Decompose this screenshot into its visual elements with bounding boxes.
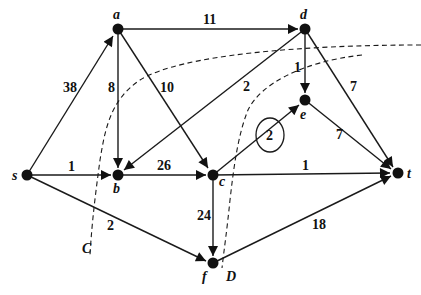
weight-f-t: 18 bbox=[312, 217, 326, 232]
label-cut-d: D bbox=[225, 269, 236, 284]
label-d: d bbox=[300, 7, 308, 22]
weight-a-b: 8 bbox=[108, 80, 115, 95]
node-f bbox=[208, 258, 219, 269]
edge-a-c bbox=[118, 29, 208, 168]
edge-d-t bbox=[305, 29, 393, 167]
weight-a-c: 10 bbox=[160, 80, 174, 95]
label-cut-c: C bbox=[82, 241, 92, 256]
node-c bbox=[208, 170, 219, 181]
weight-d-b: 2 bbox=[243, 79, 250, 94]
label-e: e bbox=[300, 107, 306, 122]
weight-c-e: 2 bbox=[266, 128, 273, 143]
node-e bbox=[300, 95, 311, 106]
weight-s-a: 38 bbox=[63, 80, 77, 95]
weight-s-f: 2 bbox=[107, 218, 114, 233]
label-a: a bbox=[113, 7, 120, 22]
label-t: t bbox=[407, 166, 412, 181]
node-s bbox=[22, 170, 33, 181]
label-f: f bbox=[202, 269, 208, 284]
node-a bbox=[113, 24, 124, 35]
cut-curve-c bbox=[90, 45, 421, 255]
node-d bbox=[300, 24, 311, 35]
weight-d-e: 1 bbox=[294, 60, 301, 75]
weight-b-c: 26 bbox=[157, 158, 171, 173]
weight-a-d: 11 bbox=[203, 12, 216, 27]
weight-e-t: 7 bbox=[336, 127, 343, 142]
label-s: s bbox=[11, 168, 18, 183]
flow-network-diagram: 38 11 8 10 2 1 7 7 1 26 2 1 24 2 18 a d … bbox=[0, 0, 421, 295]
node-t bbox=[393, 168, 404, 179]
node-b bbox=[113, 170, 124, 181]
node-labels: a d e s b c t f C D bbox=[11, 7, 412, 284]
edge-f-t bbox=[213, 176, 391, 263]
edges bbox=[27, 29, 393, 263]
edge-c-t bbox=[213, 173, 390, 175]
edge-s-a bbox=[27, 36, 113, 175]
weight-c-t: 1 bbox=[302, 158, 309, 173]
weight-c-f: 24 bbox=[197, 208, 211, 223]
edge-e-t bbox=[305, 100, 391, 169]
label-c: c bbox=[219, 174, 226, 189]
weight-s-b: 1 bbox=[68, 159, 75, 174]
weight-d-t: 7 bbox=[350, 79, 357, 94]
label-b: b bbox=[113, 181, 120, 196]
